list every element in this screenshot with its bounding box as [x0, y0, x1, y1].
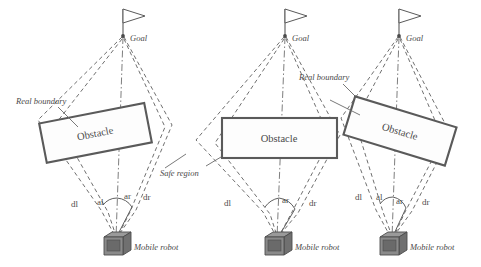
obstacle-label-middle: Obstacle	[261, 133, 298, 144]
robot-screen-right	[383, 240, 396, 251]
robot-label-middle: Mobile robot	[294, 242, 340, 252]
goal-label-right: Goal	[406, 33, 424, 43]
diagram-svg: Obstacle Real boundary dl al ar dr Goal …	[0, 0, 481, 267]
goal-point-left	[121, 34, 125, 38]
dist-right-label-middle: dr	[309, 198, 317, 208]
robot-label-left: Mobile robot	[133, 242, 179, 252]
angle-right-label-left: ar	[124, 191, 131, 201]
goal-point-middle	[283, 34, 287, 38]
goal-flag-icon-left	[123, 9, 145, 23]
robot-icon-right	[380, 232, 407, 255]
goal-label-middle: Goal	[292, 33, 310, 43]
goal-flag-icon-middle	[285, 9, 307, 23]
angle-right-label-middle: ar	[282, 195, 289, 205]
angle-left-label-right: al	[376, 192, 383, 202]
real-boundary-label-middle: Real boundary	[298, 72, 350, 82]
panel-middle: Obstacle Safe region Real boundary dl ar…	[160, 9, 364, 255]
dist-left-label-right: dl	[355, 192, 363, 202]
angle-left-arc-left	[103, 198, 117, 205]
robot-screen-middle	[268, 240, 281, 251]
angle-left-arc-middle	[265, 198, 279, 207]
dist-right-label-right: dr	[422, 197, 430, 207]
panel-left: Obstacle Real boundary dl al ar dr Goal …	[15, 9, 179, 255]
goal-label-left: Goal	[130, 33, 148, 43]
figure-container: Obstacle Real boundary dl al ar dr Goal …	[0, 0, 481, 267]
dist-left-label-left: dl	[71, 199, 79, 209]
goal-point-right	[397, 34, 401, 38]
robot-screen-left	[107, 240, 120, 251]
dist-right-label-left: dr	[143, 192, 151, 202]
safe-region-leader-middle	[165, 154, 186, 168]
robot-icon-left	[104, 232, 131, 255]
robot-label-right: Mobile robot	[409, 242, 455, 252]
goal-flag-icon-right	[399, 9, 421, 23]
robot-icon-middle	[265, 232, 292, 255]
angle-left-label-left: al	[97, 197, 104, 207]
dist-left-label-middle: dl	[224, 198, 232, 208]
safe-region-label-middle: Safe region	[160, 168, 199, 178]
angle-right-label-right: ar	[396, 196, 403, 206]
real-boundary-label-left: Real boundary	[15, 96, 67, 106]
